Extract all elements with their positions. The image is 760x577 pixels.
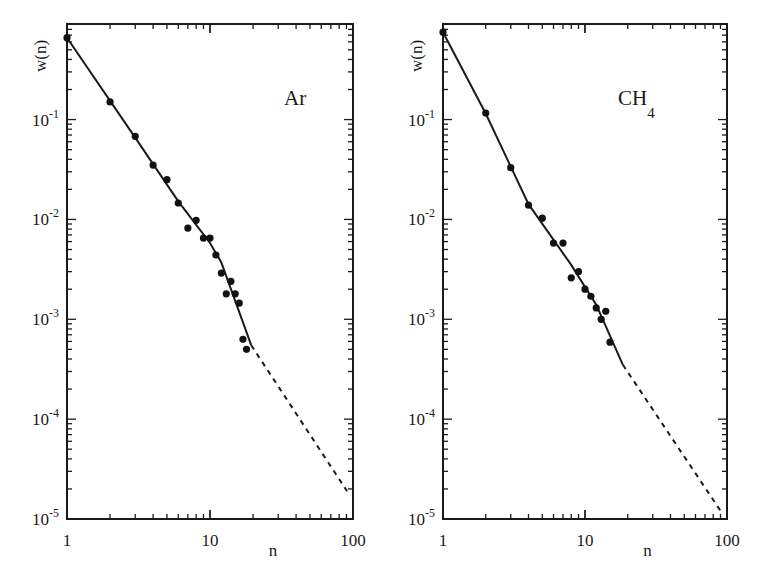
axis-ticks xyxy=(67,24,353,519)
data-point xyxy=(550,239,557,246)
y-axis-label: w(n) xyxy=(31,40,50,72)
panel-ar: 11010010-110-210-310-410-5nw(n)Ar xyxy=(31,24,366,560)
data-point xyxy=(559,239,566,246)
data-point xyxy=(227,278,234,285)
data-point xyxy=(206,235,213,242)
data-point xyxy=(575,268,582,275)
data-point xyxy=(568,274,575,281)
data-point xyxy=(212,251,219,258)
data-point xyxy=(587,293,594,300)
data-point xyxy=(439,29,446,36)
panel-label: Ar xyxy=(284,86,306,110)
extrapolation-line xyxy=(623,365,722,513)
y-tick-label: 10-3 xyxy=(408,306,435,329)
y-axis-label: w(n) xyxy=(407,40,426,72)
data-point xyxy=(200,235,207,242)
y-tick-label: 10-3 xyxy=(32,306,59,329)
x-axis-label: n xyxy=(269,541,278,560)
y-tick-label: 10-5 xyxy=(32,506,59,529)
data-point xyxy=(218,270,225,277)
x-tick-label: 10 xyxy=(202,531,219,550)
data-point xyxy=(193,217,200,224)
extrapolation-line xyxy=(251,345,347,491)
plot-canvas: 11010010-110-210-310-410-5nw(n)Ar1101001… xyxy=(0,0,760,577)
data-point xyxy=(593,304,600,311)
data-point xyxy=(223,290,230,297)
x-tick-label: 100 xyxy=(340,531,366,550)
x-tick-label: 10 xyxy=(577,531,594,550)
data-point xyxy=(239,336,246,343)
y-tick-label: 10-2 xyxy=(408,206,435,229)
data-point xyxy=(163,176,170,183)
data-point xyxy=(184,224,191,231)
y-tick-label: 10-1 xyxy=(32,107,59,130)
y-tick-label: 10-4 xyxy=(32,406,59,429)
x-tick-label: 1 xyxy=(63,531,72,550)
data-point xyxy=(602,308,609,315)
x-axis-label: n xyxy=(643,541,652,560)
y-tick-label: 10-1 xyxy=(408,107,435,130)
data-point xyxy=(106,98,113,105)
y-tick-label: 10-2 xyxy=(32,206,59,229)
data-points xyxy=(63,34,250,353)
data-point xyxy=(236,300,243,307)
data-point xyxy=(149,161,156,168)
data-point xyxy=(232,290,239,297)
data-point xyxy=(482,110,489,117)
plot-frame xyxy=(443,24,727,519)
data-point xyxy=(581,286,588,293)
data-point xyxy=(63,34,70,41)
x-tick-label: 1 xyxy=(439,531,448,550)
data-point xyxy=(525,202,532,209)
data-point xyxy=(606,339,613,346)
panel-label: CH4 xyxy=(618,86,655,121)
data-point xyxy=(539,215,546,222)
x-tick-label: 100 xyxy=(714,531,740,550)
data-point xyxy=(132,133,139,140)
fit-line xyxy=(443,32,623,365)
fit-line xyxy=(67,38,251,346)
y-tick-label: 10-5 xyxy=(408,506,435,529)
data-point xyxy=(598,316,605,323)
panel-ch4: 11010010-110-210-310-410-5nw(n)CH4 xyxy=(407,24,740,560)
y-tick-label: 10-4 xyxy=(408,406,435,429)
data-point xyxy=(175,199,182,206)
data-point xyxy=(507,164,514,171)
axis-ticks xyxy=(443,24,727,519)
figure: 11010010-110-210-310-410-5nw(n)Ar1101001… xyxy=(0,0,760,577)
plot-frame xyxy=(67,24,353,519)
data-point xyxy=(243,346,250,353)
